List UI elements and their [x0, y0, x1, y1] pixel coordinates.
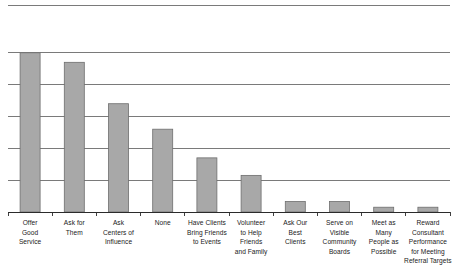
bar [20, 53, 40, 212]
bar [418, 207, 438, 212]
chart-canvas: OfferGoodServiceAsk forThemAskCenters of… [0, 0, 457, 278]
bar [197, 158, 217, 212]
tick-label: None [155, 219, 171, 226]
bar [374, 207, 394, 212]
bar [241, 175, 261, 212]
bar [64, 62, 84, 212]
bar [153, 129, 173, 212]
bar [285, 201, 305, 212]
bar [330, 201, 350, 212]
bar [109, 104, 129, 212]
bar-chart-figure: OfferGoodServiceAsk forThemAskCenters of… [0, 0, 457, 278]
